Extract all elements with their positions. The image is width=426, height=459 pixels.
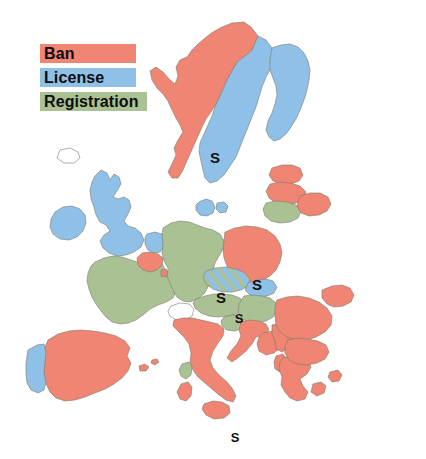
country-lithuania[interactable] [263,201,301,223]
legend-item-ban[interactable]: Ban [40,44,152,64]
country-hungary[interactable] [238,295,277,323]
legend-label-ban: Ban [44,44,75,63]
country-iceland[interactable] [57,148,80,163]
country-finland[interactable] [266,44,310,141]
island-sicily[interactable] [202,401,230,419]
island-corsica[interactable] [179,362,192,379]
country-france[interactable] [87,256,176,324]
island-balearics[interactable] [139,359,159,371]
legend-item-registration[interactable]: Registration [40,92,152,112]
legend-label-registration: Registration [44,92,139,111]
country-moldova-ukraine-edge[interactable] [322,285,354,307]
country-denmark[interactable] [196,199,228,216]
country-switzerland[interactable] [168,303,194,320]
country-estonia[interactable] [269,165,303,184]
marker-sweden: S [210,149,220,166]
country-portugal[interactable] [26,344,46,393]
marker-slovenia: S [235,311,244,326]
island-sardinia[interactable] [177,382,192,401]
legend-label-license: License [44,68,104,87]
country-united-kingdom[interactable] [90,170,144,256]
legend-item-license[interactable]: License [40,68,152,88]
country-ireland[interactable] [50,206,86,240]
country-spain[interactable] [43,330,131,401]
marker-slovakia: S [252,276,262,293]
marker-austria: S [216,289,226,306]
country-belarus-edge[interactable] [297,193,331,216]
marker-malta: S [231,430,240,445]
country-bulgaria[interactable] [285,338,329,365]
country-romania[interactable] [275,296,332,340]
map-canvas: S S S S S Ban License Registration [0,0,426,459]
legend: Ban License Registration [40,44,152,116]
